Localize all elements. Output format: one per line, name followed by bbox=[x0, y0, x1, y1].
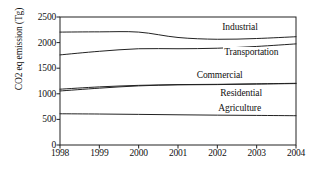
series-label-agriculture: Agriculture bbox=[217, 103, 262, 113]
axes-frame bbox=[57, 17, 297, 149]
series-label-industrial: Industrial bbox=[221, 22, 258, 32]
chart-container: CO2 eq emission (Tg) 0500100015002000250… bbox=[0, 0, 316, 178]
series-line-agriculture bbox=[60, 114, 296, 116]
series-line-industrial bbox=[60, 32, 296, 40]
series-label-commercial: Commercial bbox=[196, 70, 244, 80]
plot-area bbox=[0, 0, 316, 178]
plot-frame bbox=[60, 17, 296, 145]
series-label-residential: Residential bbox=[219, 88, 263, 98]
series-label-transportation: Transportation bbox=[223, 47, 279, 57]
